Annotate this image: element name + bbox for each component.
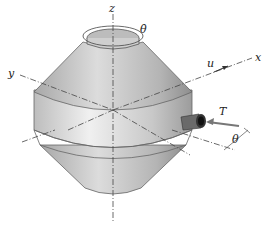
thruster (181, 114, 206, 130)
u-label: u (207, 58, 214, 69)
x-axis-label: x (255, 52, 261, 63)
theta-angle-label: θ (232, 134, 239, 145)
z-axis-label: z (109, 3, 115, 14)
thrust-T-label: T (219, 106, 226, 117)
spinning-body-diagram (0, 0, 267, 227)
y-axis-label: y (8, 68, 14, 79)
theta-dot-label: θ̇ (140, 24, 147, 35)
